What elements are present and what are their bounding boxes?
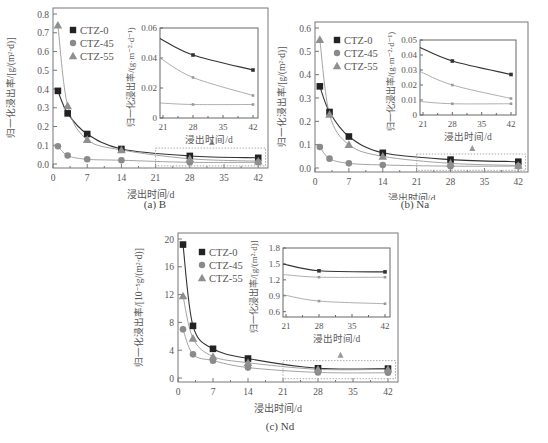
inset-x-tick-label: 35 [348,321,358,331]
marker-triangle-icon [54,21,63,29]
y-tick-label: 0.3 [37,103,49,113]
inset-marker-icon [451,59,455,63]
marker-triangle-icon [333,62,341,69]
inset-y-tick-label: 0.02 [401,80,417,90]
legend-label: CTZ-0 [209,247,238,258]
marker-circle-icon [334,50,340,56]
y-tick-label: 0.2 [299,117,311,127]
y-tick-label: 16 [165,262,175,272]
x-tick-label: 7 [211,387,216,397]
chart-panel-b: 0.00.10.20.30.40.50.60.70.8071421283542浸… [0,0,275,215]
inset-marker-icon [384,276,387,279]
x-tick-label: 28 [446,177,456,187]
arrow-up-icon [469,145,475,151]
inset-marker-icon [510,102,513,105]
y-tick-label: 0.8 [37,10,49,20]
marker-circle-icon [317,144,324,151]
inset-marker-icon [509,73,513,77]
marker-triangle-icon [63,102,72,110]
x-tick-label: 14 [243,387,253,397]
marker-circle-icon [118,157,125,164]
inset-marker-icon [252,103,255,106]
inset-x-tick-label: 28 [315,321,325,331]
marker-circle-icon [326,155,333,162]
marker-triangle-icon [198,274,206,281]
y-tick-label: 20 [165,235,175,245]
legend-label: CTZ-45 [344,48,378,59]
marker-circle-icon [379,162,386,169]
inset-marker-icon [383,270,387,274]
chart-b-svg: 0.00.10.20.30.40.50.60.70.8071421283542浸… [0,0,275,200]
chart-panel-na: 0.00.10.20.30.40.50.6071421283542浸出时间/d归… [275,0,548,215]
inset-marker-icon [317,269,321,273]
inset-marker-icon [191,53,195,57]
x-tick-label: 14 [117,173,127,183]
x-tick-label: 35 [219,173,229,183]
inset-y-tick-label: 0.06 [141,23,157,33]
inset-x-tick-label: 42 [249,122,258,132]
inset-x-tick-label: 35 [477,119,487,129]
inset-y-tick-label: 0.05 [401,35,417,45]
inset-y-tick-label: 1.2 [269,275,280,285]
inset-y-axis-label: 归一化浸出率/(g·m⁻²·d⁻¹) [125,27,136,126]
inset-x-axis-label: 浸出时间/d [313,333,361,344]
y-tick-label: 0 [169,374,174,384]
inset-y-tick-label: 0.04 [141,53,157,63]
inset-y-tick-label: 0.02 [141,83,157,93]
y-tick-label: 8 [169,318,174,328]
x-tick-label: 0 [176,387,181,397]
chart-nd-svg: 048121620071421283542浸出时间/d归一化浸出率/[10⁻⁵g… [130,220,420,425]
marker-square-icon [64,110,71,117]
marker-triangle-icon [179,292,188,300]
inset-x-tick-label: 42 [507,119,516,129]
y-tick-label: 0.1 [37,141,49,151]
x-tick-label: 0 [313,177,318,187]
legend-label: CTZ-45 [80,38,114,49]
y-axis-label: 归一化浸出率/[10⁻⁵g/(m²·d)] [133,248,145,367]
y-tick-label: 0.4 [299,70,311,80]
y-tick-label: 0.5 [299,47,311,57]
inset-y-tick-label: 0.01 [401,95,417,105]
inset-marker-icon [318,300,321,303]
legend-label: CTZ-55 [80,51,114,62]
inset-y-tick-label: 0.6 [269,307,281,317]
inset-x-tick-label: 28 [189,122,199,132]
inset-marker-icon [251,68,255,72]
caption-b: (a) B [0,198,310,210]
y-tick-label: 12 [165,290,175,300]
inset-x-tick-label: 35 [219,122,229,132]
inset-marker-icon [252,94,255,97]
y-tick-label: 0.2 [37,122,49,132]
y-tick-label: 0.7 [37,28,49,38]
inset-marker-icon [192,76,195,79]
x-tick-label: 21 [278,387,288,397]
marker-circle-icon [84,156,91,163]
inset-marker-icon [318,276,321,279]
inset-y-tick-label: 1.8 [269,243,281,253]
inset-x-tick-label: 42 [381,321,390,331]
inset-marker-icon [510,97,513,100]
legend-label: CTZ-0 [344,35,373,46]
y-tick-label: 0.6 [37,47,49,57]
caption-na: (b) Na [275,198,548,210]
marker-square-icon [346,133,353,140]
inset-marker-icon [192,103,195,106]
legend-label: CTZ-55 [344,61,378,72]
marker-square-icon [190,323,197,330]
inset-x-tick-label: 21 [282,321,291,331]
x-tick-label: 14 [378,177,388,187]
y-tick-label: 0.1 [299,140,311,150]
inset-x-axis-label: 浸出时间/d [185,134,233,145]
x-tick-label: 42 [383,387,393,397]
legend: CTZ-0CTZ-45CTZ-55 [198,247,243,284]
inset-x-tick-label: 28 [448,119,458,129]
inset-plot: 00.010.020.030.040.0521283542浸出时间/d归一化浸出… [385,32,516,142]
marker-triangle-icon [345,140,354,148]
legend: CTZ-0CTZ-45CTZ-55 [69,25,114,62]
inset-marker-icon [451,84,454,87]
y-tick-label: 0.6 [299,24,311,34]
inset-y-tick-label: 0 [413,110,418,120]
inset-y-tick-label: 0.9 [269,291,281,301]
legend: CTZ-0CTZ-45CTZ-55 [333,35,378,72]
inset-y-tick-label: 0.03 [401,65,417,75]
